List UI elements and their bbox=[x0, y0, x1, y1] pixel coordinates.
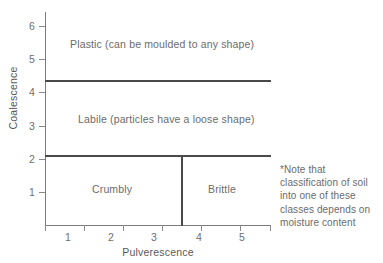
x-axis-title: Pulverescence bbox=[45, 246, 271, 258]
moisture-note: *Note that classification of soil into o… bbox=[280, 163, 380, 229]
boundary-plastic-labile bbox=[45, 80, 271, 82]
y-tick-5 bbox=[39, 59, 45, 60]
y-axis-title: Coalescence bbox=[7, 53, 19, 143]
y-tick-label-6: 6 bbox=[22, 20, 35, 32]
region-label-plastic: Plastic (can be moulded to any shape) bbox=[70, 38, 254, 50]
x-tick-3 bbox=[162, 225, 163, 231]
region-label-brittle: Brittle bbox=[208, 183, 236, 195]
y-tick-label-2: 2 bbox=[22, 153, 35, 165]
boundary-labile-lower bbox=[45, 155, 271, 157]
y-tick-label-5: 5 bbox=[22, 53, 35, 65]
y-tick-6 bbox=[39, 26, 45, 27]
soil-classification-chart: 6 5 4 3 2 1 1 2 3 4 5 Coalescence Pulver… bbox=[0, 0, 383, 263]
region-label-labile: Labile (particles have a loose shape) bbox=[78, 113, 255, 125]
region-label-crumbly: Crumbly bbox=[92, 183, 132, 195]
y-tick-label-3: 3 bbox=[22, 120, 35, 132]
y-tick-3 bbox=[39, 126, 45, 127]
x-tick-2 bbox=[123, 225, 124, 231]
x-tick-origin bbox=[45, 225, 46, 231]
x-tick-label-1: 1 bbox=[61, 231, 75, 243]
x-axis-line bbox=[45, 225, 271, 226]
x-tick-label-4: 4 bbox=[192, 231, 206, 243]
x-tick-label-3: 3 bbox=[147, 231, 161, 243]
x-tick-label-5: 5 bbox=[235, 231, 249, 243]
boundary-crumbly-brittle bbox=[181, 155, 183, 226]
y-tick-label-4: 4 bbox=[22, 86, 35, 98]
x-tick-label-2: 2 bbox=[104, 231, 118, 243]
x-tick-end bbox=[270, 225, 271, 231]
y-tick-label-1: 1 bbox=[22, 186, 35, 198]
y-tick-2 bbox=[39, 159, 45, 160]
y-tick-1 bbox=[39, 192, 45, 193]
x-tick-1 bbox=[84, 225, 85, 231]
y-axis-line bbox=[45, 12, 46, 226]
y-tick-4 bbox=[39, 92, 45, 93]
